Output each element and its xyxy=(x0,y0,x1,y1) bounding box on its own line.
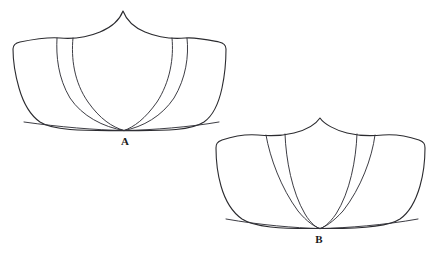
panel-a-seam-3 xyxy=(124,38,172,131)
panel-b-seam-3 xyxy=(320,134,357,229)
panel-b-group xyxy=(216,118,425,229)
figure-label-a: A xyxy=(113,136,137,147)
panel-a-group xyxy=(13,11,226,131)
figure-label-b: B xyxy=(307,234,331,245)
panel-a-seam-1 xyxy=(57,38,124,131)
panel-b-outline xyxy=(216,118,425,229)
panel-a-seam-4 xyxy=(124,38,188,131)
pattern-figure-svg xyxy=(0,0,436,259)
panel-b-seam-2 xyxy=(285,134,320,229)
panel-b-seam-4 xyxy=(320,135,375,229)
panel-b-seam-1 xyxy=(266,135,320,229)
panel-b-hem-line xyxy=(226,219,418,229)
panel-a-outline xyxy=(13,11,226,131)
panel-a-seam-2 xyxy=(72,38,124,131)
